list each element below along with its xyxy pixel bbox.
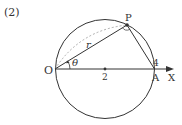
label-4: 4 [153,58,159,68]
label-p: P [125,12,132,23]
label-a: A [151,72,160,83]
label-2: 2 [102,72,108,82]
geometry-diagram: (2) O P A 2 4 X r θ [0,0,182,125]
segment-op [55,25,127,69]
label-theta: θ [72,57,78,68]
label-r: r [86,39,92,50]
point-center [104,68,107,71]
segment-pa [127,25,155,69]
label-o: O [44,64,53,77]
problem-label: (2) [4,6,20,19]
point-p [125,23,129,27]
label-x: X [168,72,176,83]
